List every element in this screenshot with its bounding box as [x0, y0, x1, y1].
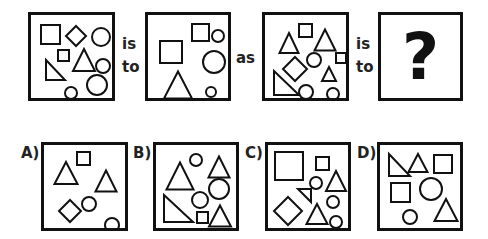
connector-word-is: is: [356, 36, 373, 53]
square-shape: [299, 24, 312, 37]
square-shape: [77, 152, 90, 165]
circle-shape: [327, 196, 339, 208]
figure-2-shapes: [148, 15, 228, 98]
square-shape: [160, 41, 182, 63]
circle-shape: [307, 53, 321, 67]
option-b-shapes: [156, 145, 236, 228]
option-a-box[interactable]: [41, 142, 128, 231]
option-c-shapes: [268, 145, 348, 228]
triangle-shape: [73, 49, 95, 71]
figure-2-box: [145, 12, 231, 101]
circle-shape: [192, 192, 208, 208]
right-triangle-shape: [274, 71, 299, 95]
connector-is-to-2: is to: [356, 36, 373, 76]
question-mark-icon: ?: [381, 15, 460, 98]
triangle-shape: [209, 157, 230, 178]
square-shape: [197, 212, 208, 223]
square-shape: [192, 24, 209, 41]
circle-shape: [65, 87, 77, 98]
circle-shape: [206, 87, 216, 97]
circle-shape: [96, 59, 110, 73]
triangle-shape: [209, 206, 231, 227]
circle-shape: [403, 210, 417, 224]
figure-1-box: [28, 12, 115, 101]
square-shape: [391, 183, 410, 202]
circle-shape: [92, 28, 110, 46]
option-d-box[interactable]: [377, 142, 463, 231]
diamond-shape: [59, 200, 81, 222]
option-b-label: B): [133, 144, 151, 162]
circle-shape: [105, 218, 119, 228]
triangle-shape: [322, 67, 336, 81]
diamond-shape: [283, 57, 307, 81]
triangle-shape: [55, 162, 78, 184]
figure-1-shapes: [31, 15, 112, 98]
circle-shape: [310, 177, 322, 189]
option-a-shapes: [44, 145, 125, 228]
square-shape: [58, 50, 69, 61]
option-c-box[interactable]: [265, 142, 351, 231]
triangle-shape: [326, 171, 346, 191]
connector-word-to: to: [122, 59, 139, 76]
figure-3-box: [262, 12, 349, 101]
square-shape: [316, 157, 329, 170]
option-d-shapes: [380, 145, 460, 228]
circle-shape: [420, 178, 442, 200]
circle-shape: [190, 154, 202, 166]
square-shape: [434, 155, 452, 173]
right-triangle-shape: [389, 154, 410, 176]
connector-as: as: [236, 50, 255, 67]
figure-3-shapes: [265, 15, 346, 98]
option-a-label: A): [21, 144, 39, 162]
diamond-shape: [274, 197, 302, 225]
triangle-shape: [307, 204, 328, 224]
circle-shape: [82, 197, 96, 211]
diamond-shape: [66, 26, 86, 46]
circle-shape: [203, 51, 225, 73]
circle-shape: [299, 85, 313, 98]
circle-shape: [209, 179, 229, 199]
square-shape: [275, 152, 303, 180]
option-d-label: D): [357, 144, 376, 162]
option-b-box[interactable]: [153, 142, 239, 231]
connector-word-is: is: [122, 36, 139, 53]
circle-shape: [212, 30, 224, 42]
connector-is-to-1: is to: [122, 36, 139, 76]
square-shape: [336, 53, 346, 63]
triangle-shape: [409, 154, 428, 172]
triangle-shape: [167, 163, 194, 190]
triangle-shape: [315, 30, 336, 51]
right-triangle-shape: [46, 60, 65, 80]
connector-word-to: to: [356, 59, 373, 76]
circle-shape: [330, 216, 342, 228]
circle-shape: [87, 75, 107, 95]
triangle-shape: [280, 33, 299, 53]
right-triangle-shape: [164, 195, 193, 222]
right-triangle-shape: [298, 189, 311, 202]
unknown-figure-box: ?: [378, 12, 463, 101]
option-c-label: C): [245, 144, 263, 162]
circle-shape: [327, 88, 339, 98]
square-shape: [41, 25, 60, 44]
triangle-shape: [96, 171, 117, 192]
connector-word-as: as: [236, 49, 255, 67]
triangle-shape: [164, 72, 192, 99]
triangle-shape: [435, 199, 458, 221]
